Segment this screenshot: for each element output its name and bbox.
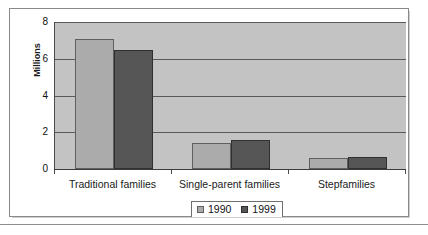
bar-1990-1 [75,39,114,169]
x-axis-category-label: Stepfamilies [257,178,428,190]
chart-figure: Millions 02468 19901999 Traditional fami… [0,0,428,235]
y-axis-tick-label: 4 [30,91,48,101]
y-axis-tick-label: 0 [30,164,48,174]
y-axis-tick-label: 6 [30,54,48,64]
bar-1990-3 [309,158,348,169]
bar-1999-3 [348,157,387,169]
x-axis-line [54,169,406,170]
legend-swatch-icon [241,206,248,213]
legend-swatch-icon [197,206,204,213]
x-axis-tick-mark [54,170,55,174]
y-axis-tick-label: 8 [30,17,48,27]
y-axis-ticks: 02468 [30,22,48,169]
bar-1999-1 [114,50,153,169]
gridline [55,22,406,23]
plot-area [54,22,406,169]
chart-legend: 19901999 [191,201,283,218]
chart-frame: Millions 02468 19901999 Traditional fami… [9,8,409,217]
x-axis-tick-mark [405,170,406,174]
legend-label: 1999 [252,204,275,215]
bar-1999-2 [231,140,270,169]
legend-item-1990[interactable]: 1990 [197,204,231,215]
legend-item-1999[interactable]: 1999 [241,204,275,215]
bar-1990-2 [192,143,231,169]
x-axis-tick-mark [288,170,289,174]
x-axis-tick-mark [171,170,172,174]
horizontal-rule [0,224,428,225]
y-axis-tick-label: 2 [30,127,48,137]
legend-label: 1990 [208,204,231,215]
